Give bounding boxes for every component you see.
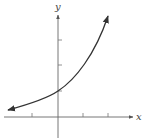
exponential-graph: y x xyxy=(0,0,145,138)
y-ticks xyxy=(58,40,62,91)
x-axis-label: x xyxy=(136,111,142,122)
y-axis-label: y xyxy=(54,1,61,12)
x-ticks xyxy=(32,113,108,117)
